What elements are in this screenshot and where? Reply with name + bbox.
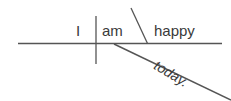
sentence-diagram: I am happy today. xyxy=(0,0,231,101)
diagram-lines xyxy=(0,0,231,101)
complement-divider xyxy=(131,8,148,44)
word-subject: I xyxy=(76,23,80,38)
word-complement: happy xyxy=(154,23,195,38)
word-verb: am xyxy=(102,23,123,38)
